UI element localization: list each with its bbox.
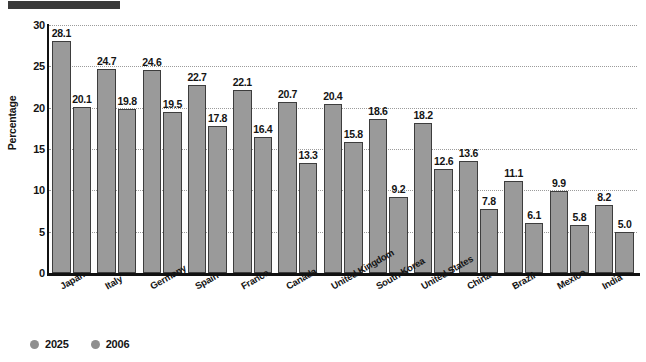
bar bbox=[73, 107, 92, 273]
bar-value-label: 8.2 bbox=[590, 192, 618, 203]
bar bbox=[299, 163, 318, 273]
chart-legend: 20252006 bbox=[30, 338, 129, 350]
bar bbox=[525, 223, 544, 273]
plot-area: 28.120.124.719.824.619.522.717.822.116.4… bbox=[49, 25, 637, 273]
bar-value-label: 28.1 bbox=[47, 28, 75, 39]
bar bbox=[414, 123, 433, 273]
y-axis-tick-labels: 051015202530 bbox=[0, 0, 45, 362]
bar bbox=[208, 126, 227, 273]
bar bbox=[389, 197, 408, 273]
bar-value-label: 18.6 bbox=[364, 106, 392, 117]
bar-chart: 051015202530 Percentage 28.120.124.719.8… bbox=[0, 0, 646, 362]
bar bbox=[163, 112, 182, 273]
bar bbox=[254, 137, 273, 273]
bar bbox=[570, 225, 589, 273]
bar-value-label: 24.6 bbox=[138, 57, 166, 68]
bar-value-label: 18.2 bbox=[409, 110, 437, 121]
legend-label: 2006 bbox=[106, 338, 130, 350]
bar-value-label: 24.7 bbox=[93, 56, 121, 67]
bar bbox=[344, 142, 363, 273]
bar-value-label: 20.4 bbox=[319, 91, 347, 102]
bar-value-label: 22.7 bbox=[183, 72, 211, 83]
bar-value-label: 22.1 bbox=[228, 77, 256, 88]
bar bbox=[278, 102, 297, 273]
y-tick-label: 0 bbox=[3, 268, 45, 279]
bar-value-label: 13.6 bbox=[454, 148, 482, 159]
bar bbox=[504, 181, 523, 273]
bar bbox=[434, 169, 453, 273]
y-tick-label: 30 bbox=[3, 20, 45, 31]
bar-value-label: 6.1 bbox=[520, 210, 548, 221]
bar-value-label: 20.1 bbox=[68, 94, 96, 105]
bar bbox=[233, 90, 252, 273]
bar-value-label: 15.8 bbox=[339, 129, 367, 140]
bar-value-label: 9.9 bbox=[545, 178, 573, 189]
bar bbox=[550, 191, 569, 273]
bar bbox=[52, 41, 71, 273]
y-tick-label: 25 bbox=[3, 61, 45, 72]
legend-swatch-circle-icon bbox=[91, 340, 100, 349]
bar bbox=[480, 209, 499, 273]
bar-value-label: 7.8 bbox=[475, 196, 503, 207]
bar-value-label: 9.2 bbox=[384, 184, 412, 195]
bar-value-label: 20.7 bbox=[274, 89, 302, 100]
bar-value-label: 17.8 bbox=[204, 113, 232, 124]
bar-value-label: 19.8 bbox=[113, 96, 141, 107]
legend-swatch-circle-icon bbox=[30, 340, 39, 349]
y-tick-label: 10 bbox=[3, 185, 45, 196]
bar-value-label: 13.3 bbox=[294, 150, 322, 161]
bar bbox=[615, 232, 634, 273]
legend-label: 2025 bbox=[45, 338, 69, 350]
bar-value-label: 5.8 bbox=[565, 212, 593, 223]
y-tick-label: 5 bbox=[3, 227, 45, 238]
legend-item[interactable]: 2025 bbox=[30, 338, 69, 350]
legend-item[interactable]: 2006 bbox=[91, 338, 130, 350]
bar bbox=[595, 205, 614, 273]
bar-value-label: 11.1 bbox=[500, 168, 528, 179]
bar bbox=[118, 109, 137, 273]
y-axis-title: Percentage bbox=[6, 78, 18, 168]
bar-value-label: 5.0 bbox=[611, 219, 639, 230]
bar-value-label: 19.5 bbox=[158, 99, 186, 110]
bar-value-label: 16.4 bbox=[249, 124, 277, 135]
